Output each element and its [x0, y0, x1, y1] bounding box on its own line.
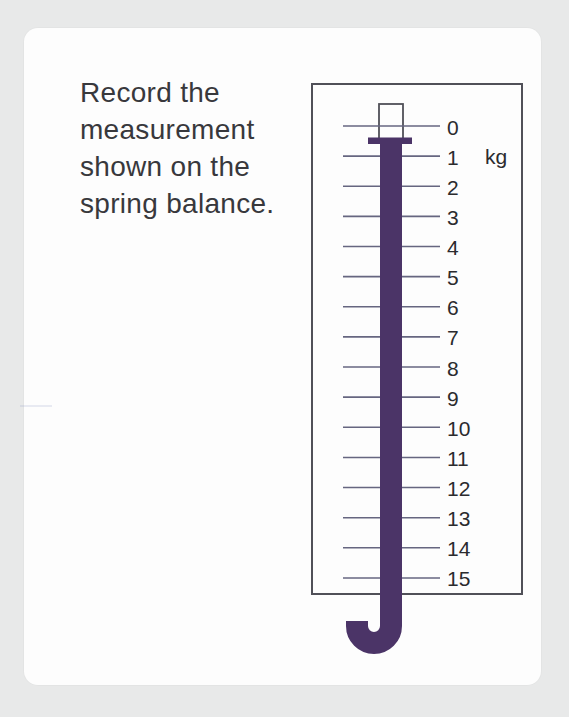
- question-line: spring balance.: [80, 185, 310, 222]
- tick-label: 14: [447, 537, 471, 560]
- question-line: shown on the: [80, 148, 310, 185]
- tick-label: 4: [447, 236, 459, 259]
- unit-label: kg: [485, 145, 507, 168]
- tick-label: 2: [447, 176, 459, 199]
- tick-label: 11: [447, 447, 469, 470]
- page: { "colors": { "page_background": "#e8e9e…: [0, 0, 569, 717]
- tick-label: 5: [447, 266, 459, 289]
- question-line: measurement: [80, 111, 310, 148]
- tick-label: 1: [447, 146, 459, 169]
- tick-label: 7: [447, 326, 459, 349]
- tick-label: 0: [447, 116, 459, 139]
- question-text: Record the measurement shown on the spri…: [80, 74, 310, 222]
- tick-label: 10: [447, 417, 470, 440]
- tick-label: 3: [447, 206, 459, 229]
- spring-balance-diagram: 0123456789101112131415 kg: [300, 80, 550, 680]
- tick-label: 8: [447, 357, 459, 380]
- tick-label: 6: [447, 296, 459, 319]
- question-line: Record the: [80, 74, 310, 111]
- scan-artifact-line: [20, 405, 52, 407]
- tick-label: 9: [447, 387, 459, 410]
- pointer-indicator: [368, 138, 412, 145]
- tick-label: 13: [447, 507, 470, 530]
- spring-top-rect: [379, 104, 403, 139]
- tick-label: 12: [447, 477, 470, 500]
- tick-label: 15: [447, 567, 470, 590]
